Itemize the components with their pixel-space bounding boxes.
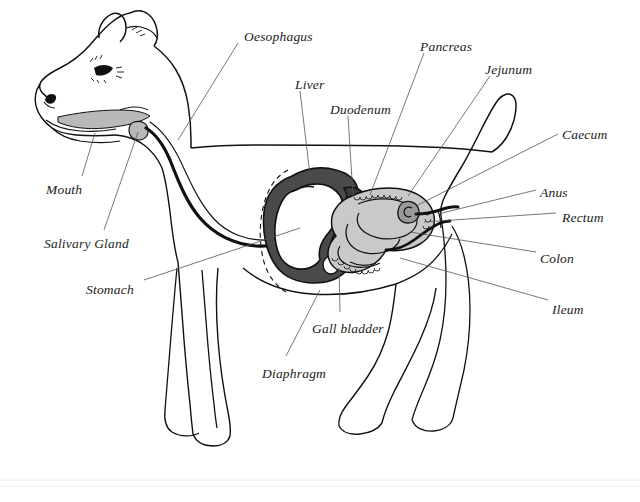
label-ileum: Ileum xyxy=(552,303,584,317)
label-colon: Colon xyxy=(540,252,574,266)
leader-line-rectum xyxy=(424,213,556,222)
label-gall-bladder: Gall bladder xyxy=(312,322,384,336)
leader-line-caecum xyxy=(418,134,558,205)
leader-line-liver xyxy=(300,91,310,175)
organ-jejunum xyxy=(328,188,434,273)
label-duodenum: Duodenum xyxy=(330,103,391,117)
label-diaphragm: Diaphragm xyxy=(262,367,326,381)
label-liver: Liver xyxy=(295,78,325,92)
organ-intestinal-mass xyxy=(328,188,434,274)
label-anus: Anus xyxy=(540,186,568,200)
leader-line-ileum xyxy=(400,258,548,300)
leader-line-oesophagus xyxy=(178,43,238,140)
label-mouth: Mouth xyxy=(46,183,82,197)
label-oesophagus: Oesophagus xyxy=(244,30,313,44)
organ-salivary-gland xyxy=(129,121,148,140)
label-jejunum: Jejunum xyxy=(485,63,532,77)
leader-line-mouth xyxy=(82,133,95,176)
leader-line-anus xyxy=(442,190,536,213)
label-pancreas: Pancreas xyxy=(420,40,472,54)
leader-line-salivary-gland xyxy=(104,132,138,230)
label-stomach: Stomach xyxy=(86,283,134,297)
leader-line-pancreas xyxy=(370,53,424,195)
anatomy-diagram: OesophagusLiverDuodenumPancreasJejunumCa… xyxy=(0,0,640,502)
organ-caecum xyxy=(398,201,419,223)
leader-line-colon xyxy=(410,232,536,252)
label-caecum: Caecum xyxy=(562,128,607,142)
label-rectum: Rectum xyxy=(562,211,604,225)
label-salivary-gland: Salivary Gland xyxy=(44,237,129,251)
